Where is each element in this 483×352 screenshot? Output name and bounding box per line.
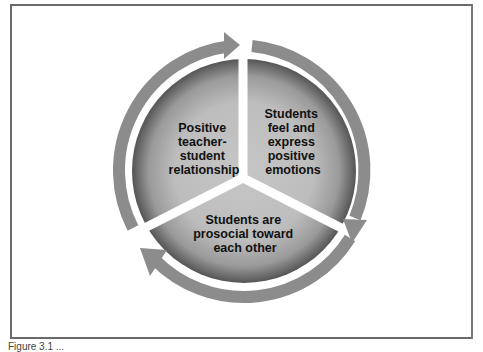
arrowhead-top-icon [224,32,240,59]
figure-caption: Figure 3.1 ... [8,341,64,352]
segment-right-label: Students feel and express positive emoti… [265,107,322,177]
